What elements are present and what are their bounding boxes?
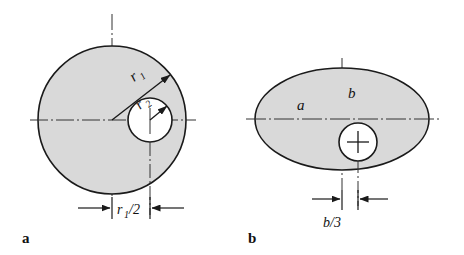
figure-canvas: r 1 r 2 r 1 /2 a (0, 0, 464, 255)
panel-b-semi-major-label: a (297, 97, 305, 113)
panel-b-dimension-label: b/3 (323, 215, 341, 230)
panel-a-dimension-label-tail: /2 (128, 202, 140, 217)
panel-b-caption: b (248, 230, 256, 246)
panel-a-group: r 1 r 2 r 1 /2 a (22, 14, 196, 246)
panel-b-semi-minor-label: b (348, 85, 356, 101)
technical-figure: r 1 r 2 r 1 /2 a (0, 0, 464, 255)
panel-a-caption: a (22, 230, 30, 246)
panel-b-group: a b b/3 b (246, 58, 440, 246)
panel-a-dimension-label-main: r (117, 202, 123, 217)
panel-a-dimension-label-group: r 1 /2 (117, 202, 140, 220)
